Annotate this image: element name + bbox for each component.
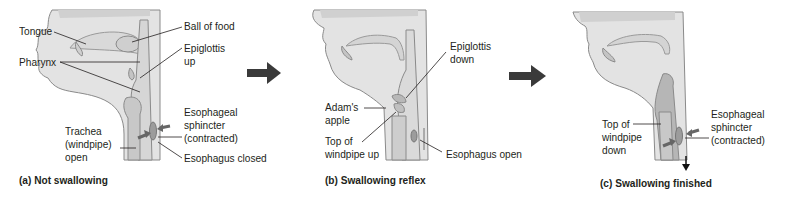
label-esophageal-sphincter-c: Esophageal sphincter (contracted) [711, 108, 765, 147]
panel-swallowing-reflex: Epiglottis down Adam's apple Top of wind… [280, 0, 520, 204]
caption-not-swallowing: (a) Not swallowing [19, 174, 108, 186]
caption-swallowing-finished: (c) Swallowing finished [600, 177, 712, 189]
head-cross-section-c [545, 0, 785, 204]
panel-not-swallowing: Tongue Pharynx Ball of food Epiglottis u… [0, 0, 260, 204]
label-adams-apple: Adam's apple [325, 101, 358, 127]
label-ball-of-food: Ball of food [184, 20, 235, 33]
label-pharynx: Pharynx [19, 56, 56, 69]
label-epiglottis-down: Epiglottis down [450, 40, 491, 66]
caption-swallowing-reflex: (b) Swallowing reflex [325, 174, 426, 186]
label-esophagus-closed: Esophagus closed [184, 152, 267, 165]
label-tongue: Tongue [19, 25, 52, 38]
label-trachea-open: Trachea (windpipe) open [65, 125, 112, 164]
label-top-of-windpipe-up: Top of windpipe up [325, 135, 379, 161]
label-top-of-windpipe-down: Top of windpipe down [602, 118, 642, 157]
label-esophagus-open: Esophagus open [446, 148, 522, 161]
label-esophageal-sphincter: Esophageal sphincter (contracted) [184, 106, 238, 145]
panel-swallowing-finished: Top of windpipe down Esophageal sphincte… [545, 0, 785, 204]
label-epiglottis-up: Epiglottis up [184, 42, 225, 68]
